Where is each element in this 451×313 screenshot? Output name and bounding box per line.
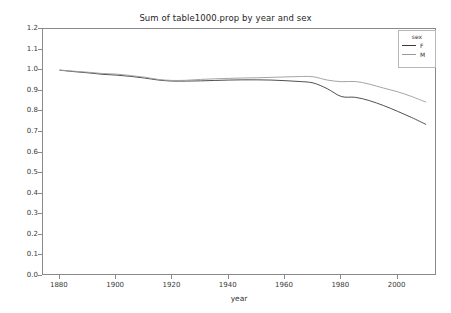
x-axis-tick-mark <box>115 275 116 279</box>
y-axis-tick-label: 0.4 <box>12 189 38 197</box>
y-axis-tick-labels: 0.00.10.20.30.40.50.60.70.80.91.01.11.2 <box>8 28 38 275</box>
x-axis-tick-mark <box>228 275 229 279</box>
x-axis-tick-label: 1880 <box>39 281 79 289</box>
y-axis-tick-label: 0.2 <box>12 230 38 238</box>
x-axis-tick-label: 1940 <box>208 281 248 289</box>
x-axis-tick-label: 1960 <box>264 281 304 289</box>
y-axis-tick-label: 0.5 <box>12 168 38 176</box>
x-axis-tick-label: 1980 <box>320 281 360 289</box>
legend-item-M: M <box>399 50 435 59</box>
x-axis-tick-mark <box>284 275 285 279</box>
x-axis-tick-label: 1900 <box>95 281 135 289</box>
y-axis-tick-label: 0.7 <box>12 127 38 135</box>
x-axis-tick-mark <box>59 275 60 279</box>
legend-item-F: F <box>399 41 435 50</box>
chart-title: Sum of table1000.prop by year and sex <box>0 13 451 23</box>
y-axis-tick-label: 1.0 <box>12 65 38 73</box>
x-axis-tick-labels: 1880190019201940196019802000 <box>42 281 436 293</box>
y-axis-tick-label: 0.9 <box>12 86 38 94</box>
legend-swatch-M <box>402 54 416 55</box>
x-axis-tick-mark <box>340 275 341 279</box>
y-axis-tick-label: 0.3 <box>12 209 38 217</box>
y-axis-tick-label: 0.1 <box>12 250 38 258</box>
x-axis-tick-marks <box>42 275 436 280</box>
legend-label-F: F <box>420 41 423 50</box>
y-axis-tick-label: 0.0 <box>12 271 38 279</box>
legend-title: sex <box>399 33 435 41</box>
x-axis-tick-mark <box>171 275 172 279</box>
y-axis-tick-label: 0.8 <box>12 106 38 114</box>
chart-figure: Sum of table1000.prop by year and sex 0.… <box>0 0 451 313</box>
y-axis-tick-label: 1.1 <box>12 45 38 53</box>
legend-label-M: M <box>420 50 425 59</box>
plot-area <box>42 28 436 275</box>
plot-lines <box>43 29 437 276</box>
legend-swatch-F <box>402 45 416 46</box>
y-axis-tick-label: 1.2 <box>12 24 38 32</box>
legend-entries: FM <box>399 41 435 59</box>
legend: sex FM <box>398 30 436 68</box>
x-axis-tick-label: 2000 <box>377 281 417 289</box>
x-axis-title: year <box>42 294 436 303</box>
x-axis-tick-label: 1920 <box>151 281 191 289</box>
x-axis-tick-mark <box>397 275 398 279</box>
y-axis-tick-label: 0.6 <box>12 148 38 156</box>
